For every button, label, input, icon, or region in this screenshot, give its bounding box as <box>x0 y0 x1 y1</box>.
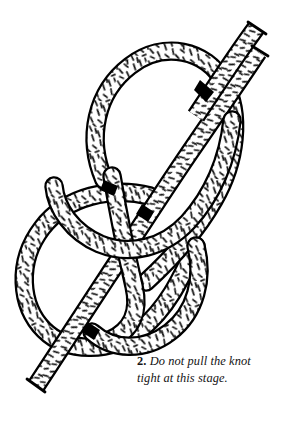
caption-line-1: 2. Do not pull the knot <box>137 353 277 370</box>
caption-line-1-text: Do not pull the knot <box>150 354 251 368</box>
caption: 2. Do not pull the knot tight at this st… <box>137 353 277 386</box>
caption-step-number: 2. <box>137 354 150 368</box>
rope-drawing <box>24 22 268 392</box>
caption-line-2-text: tight at this stage. <box>137 370 277 387</box>
knot-illustration: Figure-eight knot tying step Line drawin… <box>0 0 288 428</box>
